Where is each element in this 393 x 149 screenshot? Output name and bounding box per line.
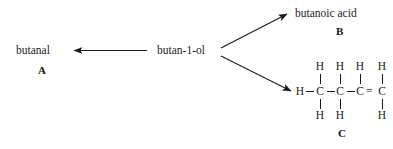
reaction-scheme-diagram: butanal A butan-1-ol butanoic acid B H H… (0, 0, 393, 149)
bond-c2-bottom-h (340, 99, 341, 109)
bottom-hydrogen-1: H (314, 109, 326, 121)
double-bond-c3-c4: = (366, 85, 373, 97)
bond-c1-top-h (320, 74, 321, 84)
product-label-butanal: butanal (16, 44, 50, 57)
bottom-hydrogen-2: H (334, 109, 346, 121)
carbon-1: C (314, 85, 326, 97)
bond-c3-top-h (360, 74, 361, 84)
bond-c1-bottom-h (320, 99, 321, 109)
carbon-3: C (354, 85, 366, 97)
bottom-hydrogen-3: H (376, 109, 388, 121)
arrow-to-structure-c (221, 56, 291, 91)
top-hydrogen-4: H (376, 60, 388, 72)
bond-c2-top-h (340, 74, 341, 84)
product-label-butanoic-acid: butanoic acid (295, 7, 357, 20)
product-tag-b: B (336, 25, 343, 37)
carbon-4: C (376, 85, 388, 97)
bond-h-c1 (306, 91, 314, 92)
top-hydrogen-2: H (334, 60, 346, 72)
top-hydrogen-1: H (314, 60, 326, 72)
bond-c4-top-h (382, 74, 383, 84)
bond-c4-bottom-h (382, 99, 383, 109)
product-tag-c: C (338, 127, 346, 139)
arrow-to-butanoic-acid (221, 14, 287, 48)
product-tag-a: A (38, 64, 46, 76)
top-hydrogen-3: H (354, 60, 366, 72)
reactant-label-butan-1-ol: butan-1-ol (157, 44, 205, 57)
carbon-2: C (334, 85, 346, 97)
displayed-formula-but-1-ene: H H H H H C C C = C H H H (296, 60, 393, 122)
terminal-hydrogen-left: H (294, 85, 306, 97)
